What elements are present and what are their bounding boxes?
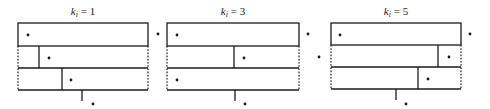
point-outside (318, 56, 321, 59)
row-1-box (18, 23, 148, 46)
point-row-3 (70, 79, 73, 82)
point-row-3 (176, 79, 179, 82)
row-1-box (331, 23, 461, 45)
point-outside (469, 33, 472, 36)
panel-k1: ki = 1 (18, 5, 159, 105)
panel-k5: ki = 5 (331, 5, 471, 105)
diagram-canvas: ki = 1 ki = 3 ki = 5 (0, 0, 490, 109)
point-bottom (405, 103, 408, 106)
panel-k3: ki = 3 (167, 5, 320, 105)
panel-label: ki = 3 (221, 5, 246, 19)
point-bottom (92, 103, 95, 106)
point-row-1 (339, 34, 342, 37)
row-1-box (167, 23, 299, 46)
point-bottom (244, 103, 247, 106)
panel-label: ki = 5 (384, 5, 409, 19)
point-row-1 (27, 34, 30, 37)
point-outside (157, 33, 160, 36)
point-row-1 (176, 34, 179, 37)
point-row-2 (48, 57, 51, 60)
point-row-2 (243, 57, 246, 60)
point-outside (307, 33, 310, 36)
point-row-3 (427, 78, 430, 81)
point-row-2 (448, 56, 451, 59)
panel-label: ki = 1 (71, 5, 95, 19)
